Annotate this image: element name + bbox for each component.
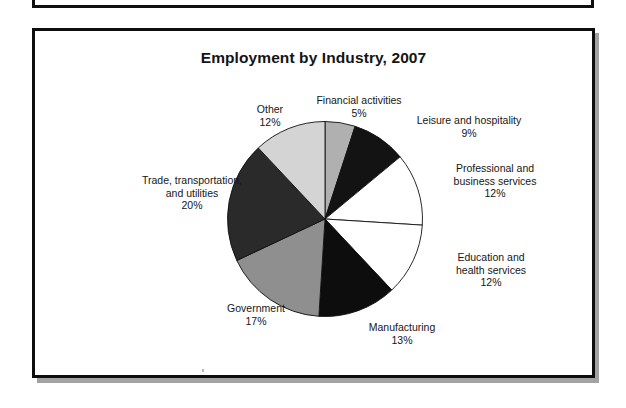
slice-label-education-line1: Education and [457,251,524,263]
slice-value-other: 12% [239,116,301,129]
slice-label-government: Government 17% [203,302,309,327]
chart-frame: Employment by Industry, 2007 Financial a… [32,28,595,378]
slice-label-manufacturing: Manufacturing 13% [348,321,456,346]
slice-label-trade-line1: Trade, transportation, [142,174,242,186]
slice-label-other-text: Other [257,103,283,115]
slice-value-education-and-health-services: 12% [439,276,543,289]
slice-value-government: 17% [203,315,309,328]
slice-label-government-text: Government [227,302,285,314]
slice-label-leisure-and-hospitality: Leisure and hospitality 9% [401,114,537,139]
pie-chart [225,119,425,319]
slice-label-other: Other 12% [239,103,301,128]
chart-title: Employment by Industry, 2007 [35,49,592,67]
page-speck-artifact [202,369,204,372]
slice-label-financial-activities-text: Financial activities [316,94,401,106]
slice-label-education-line2: health services [456,264,526,276]
chart-page: Employment by Industry, 2007 Financial a… [0,0,626,408]
slice-label-professional-line1: Professional and [456,162,534,174]
slice-value-professional-and-business-services: 12% [439,187,551,200]
pie-svg [225,119,425,319]
slice-label-trade-transportation-and-utilities: Trade, transportation, and utilities 20% [121,174,263,212]
slice-label-education-and-health-services: Education and health services 12% [439,251,543,289]
top-partial-frame [32,0,594,8]
slice-label-professional-line2: business services [454,175,537,187]
slice-label-leisure-and-hospitality-text: Leisure and hospitality [417,114,521,126]
slice-label-manufacturing-text: Manufacturing [369,321,436,333]
slice-label-trade-line2: and utilities [166,187,219,199]
slice-value-leisure-and-hospitality: 9% [401,127,537,140]
slice-label-professional-and-business-services: Professional and business services 12% [439,162,551,200]
slice-value-trade-transportation-and-utilities: 20% [121,199,263,212]
slice-value-manufacturing: 13% [348,334,456,347]
